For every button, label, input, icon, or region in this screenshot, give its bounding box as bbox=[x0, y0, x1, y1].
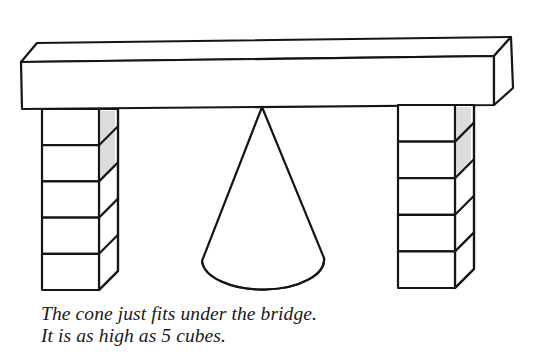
bridge-diagram bbox=[0, 0, 536, 300]
cube bbox=[398, 105, 455, 142]
caption: The cone just fits under the bridge. It … bbox=[41, 303, 317, 347]
cube bbox=[42, 145, 99, 181]
cube bbox=[42, 181, 99, 217]
cube bbox=[42, 218, 99, 254]
cube bbox=[398, 142, 455, 179]
cone bbox=[202, 107, 324, 290]
left-cube-pillar bbox=[42, 109, 118, 290]
cube bbox=[42, 254, 99, 290]
right-cube-pillar bbox=[398, 105, 474, 288]
cone-body bbox=[202, 107, 324, 290]
caption-line-2: It is as high as 5 cubes. bbox=[41, 325, 317, 347]
cube bbox=[398, 215, 455, 252]
bridge-beam bbox=[21, 37, 513, 109]
caption-line-1: The cone just fits under the bridge. bbox=[41, 303, 317, 325]
cube bbox=[398, 178, 455, 215]
cube bbox=[42, 109, 99, 145]
cube bbox=[398, 251, 455, 288]
beam-front-face bbox=[21, 56, 494, 109]
